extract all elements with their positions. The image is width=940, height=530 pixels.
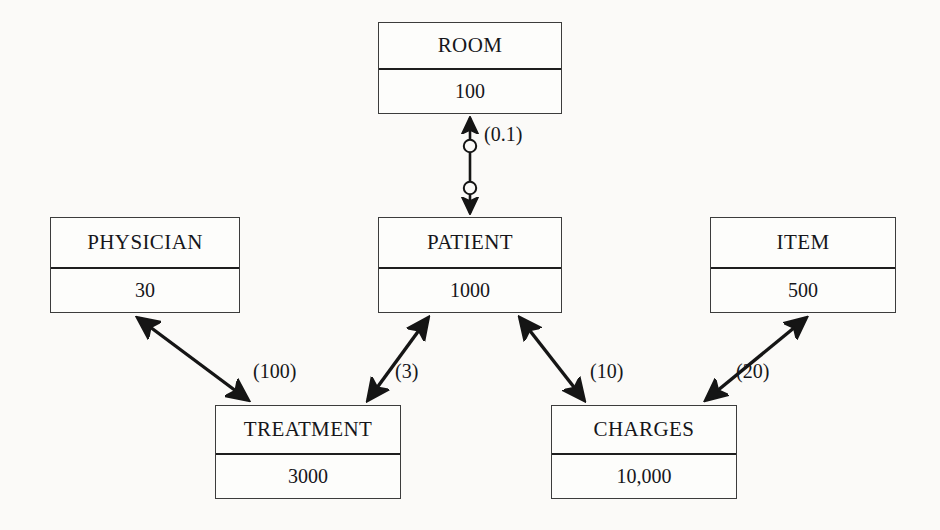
relationship-label-room-patient: (0.1) — [484, 123, 522, 146]
entity-count-treatment: 3000 — [216, 455, 400, 498]
entity-count-item: 500 — [711, 269, 895, 312]
relationship-patient-treatment-line — [368, 318, 428, 400]
relationship-label-physician-treatment: (100) — [253, 360, 296, 383]
entity-count-patient: 1000 — [379, 269, 561, 312]
entity-name-physician: PHYSICIAN — [51, 218, 239, 269]
diagram-canvas: ROOM 100 PHYSICIAN 30 PATIENT 1000 ITEM … — [0, 0, 940, 530]
entity-box-item[interactable]: ITEM 500 — [710, 217, 896, 313]
entity-box-room[interactable]: ROOM 100 — [378, 22, 562, 114]
entity-box-patient[interactable]: PATIENT 1000 — [378, 217, 562, 313]
relationship-patient-charges-line — [520, 318, 584, 400]
entity-count-physician: 30 — [51, 269, 239, 312]
optionality-circle-room-side — [464, 140, 476, 152]
relationship-label-patient-treatment: (3) — [395, 360, 418, 383]
entity-box-physician[interactable]: PHYSICIAN 30 — [50, 217, 240, 313]
entity-name-patient: PATIENT — [379, 218, 561, 269]
entity-box-charges[interactable]: CHARGES 10,000 — [551, 405, 737, 499]
relationship-physician-treatment-line — [138, 318, 248, 400]
optionality-circle-patient-side — [464, 182, 476, 194]
entity-box-treatment[interactable]: TREATMENT 3000 — [215, 405, 401, 499]
relationship-label-item-charges: (20) — [736, 360, 769, 383]
relationship-label-patient-charges: (10) — [590, 360, 623, 383]
entity-name-treatment: TREATMENT — [216, 406, 400, 455]
entity-count-room: 100 — [379, 70, 561, 113]
entity-count-charges: 10,000 — [552, 455, 736, 498]
relationship-item-charges-line — [706, 318, 806, 400]
entity-name-item: ITEM — [711, 218, 895, 269]
entity-name-charges: CHARGES — [552, 406, 736, 455]
entity-name-room: ROOM — [379, 23, 561, 70]
relationship-room-patient — [464, 118, 476, 213]
